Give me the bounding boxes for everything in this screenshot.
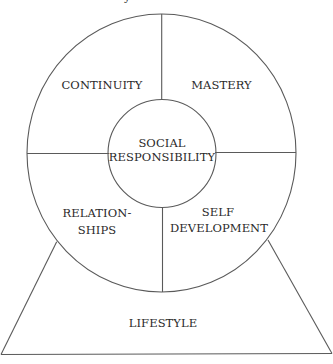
lifestyle-base bbox=[1, 240, 332, 355]
cropped-title-fragment: y bbox=[123, 0, 131, 4]
base-left-side bbox=[1, 242, 57, 355]
label-development: DEVELOPMENT bbox=[170, 221, 268, 235]
label-lifestyle: LIFESTYLE bbox=[129, 316, 198, 330]
label-responsibility: RESPONSIBILITY bbox=[109, 150, 216, 164]
label-continuity: CONTINUITY bbox=[61, 78, 142, 92]
label-social: SOCIAL bbox=[138, 136, 185, 150]
label-relation: RELATION- bbox=[63, 206, 132, 220]
label-mastery: MASTERY bbox=[191, 78, 252, 92]
base-bottom-edge bbox=[1, 354, 332, 355]
base-right-side bbox=[268, 240, 332, 354]
wheel-diagram: y CONTINUITY MASTERY SOCIAL RESPONSIBILI… bbox=[0, 0, 333, 364]
label-ships: SHIPS bbox=[78, 223, 117, 237]
label-self: SELF bbox=[202, 205, 234, 219]
